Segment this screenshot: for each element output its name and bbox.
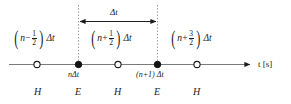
fraction-denominator: 2 <box>32 39 37 47</box>
time-axis-figure: Δt ( n − 1 2 ) Δt ( n + <box>0 0 291 104</box>
field-label-e-2: E <box>154 87 160 97</box>
figure-vector-layer <box>0 0 291 104</box>
marker-open-3 <box>194 61 200 67</box>
fraction-numerator: 1 <box>32 30 37 38</box>
tick-label-n-plus-1-dt: (n+1) Δt <box>136 71 164 79</box>
operator: − <box>25 34 31 44</box>
open-paren: ( <box>171 31 175 47</box>
fraction: 3 2 <box>189 30 194 47</box>
field-label-e-1: E <box>75 87 81 97</box>
fraction-denominator: 2 <box>109 39 114 47</box>
close-paren: ) <box>39 31 43 47</box>
field-label-h-1: H <box>34 87 41 97</box>
marker-open-1 <box>34 61 40 67</box>
marker-filled-2 <box>154 61 160 67</box>
marker-open-2 <box>115 61 121 67</box>
label-n-minus-half: ( n − 1 2 ) Δt <box>13 30 55 48</box>
close-paren: ) <box>196 31 200 47</box>
axis-caption: t [s] <box>258 60 272 69</box>
label-n-plus-half: ( n + 1 2 ) Δt <box>90 30 132 48</box>
fraction-numerator: 1 <box>109 30 114 38</box>
tick-label-n-dt: nΔt <box>68 71 79 79</box>
open-paren: ( <box>91 31 95 47</box>
marker-filled-1 <box>75 61 81 67</box>
fraction-numerator: 3 <box>189 30 194 38</box>
fraction: 1 2 <box>32 30 37 47</box>
close-paren: ) <box>116 31 120 47</box>
field-label-h-3: H <box>193 87 200 97</box>
operator: + <box>102 34 108 44</box>
operator: + <box>182 34 188 44</box>
delta-t-top-label: Δt <box>110 8 118 17</box>
open-paren: ( <box>14 31 18 47</box>
delta-t-suffix: Δt <box>203 34 211 44</box>
label-n-plus-three-halves: ( n + 3 2 ) Δt <box>170 30 212 48</box>
fraction: 1 2 <box>109 30 114 47</box>
fraction-denominator: 2 <box>189 39 194 47</box>
delta-t-suffix: Δt <box>46 34 54 44</box>
field-label-h-2: H <box>114 87 121 97</box>
delta-t-suffix: Δt <box>123 34 131 44</box>
